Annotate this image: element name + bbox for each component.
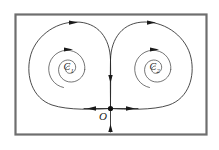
left-focus-label: C (64, 61, 71, 72)
left-focus-subscript: 1 (71, 67, 74, 74)
phase-portrait-figure: O C 1 C 2 (0, 0, 219, 150)
origin-saddle-point (108, 106, 113, 111)
phase-portrait-canvas: O C 1 C 2 (0, 0, 219, 150)
origin-label: O (99, 110, 107, 122)
right-focus-label: C (150, 61, 157, 72)
